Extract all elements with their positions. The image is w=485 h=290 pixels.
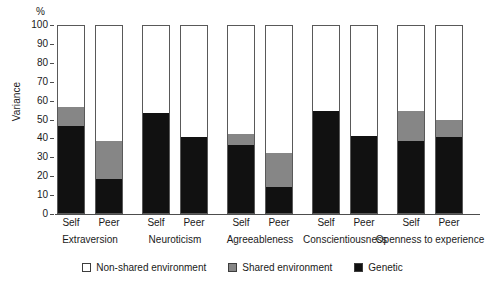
x-rater-label: Peer	[259, 217, 299, 228]
y-axis-tick-labels: 1009080706050403020100	[22, 0, 48, 290]
x-rater-label: Peer	[89, 217, 129, 228]
chart-legend: Non-shared environmentShared environment…	[0, 262, 485, 273]
bar-openness-to-experience-peer	[435, 25, 463, 214]
y-axis-title: Variance	[11, 62, 22, 142]
y-tick-label: 90	[22, 39, 48, 49]
segment-genetic	[96, 179, 122, 213]
x-rater-label: Self	[136, 217, 176, 228]
y-tick-label: 30	[22, 152, 48, 162]
variance-stacked-bar-chart: % Variance 1009080706050403020100 SelfPe…	[0, 0, 485, 290]
x-rater-label: Self	[221, 217, 261, 228]
bar-extraversion-self	[57, 25, 85, 214]
legend-swatch-icon	[354, 263, 363, 272]
x-axis-line	[55, 214, 480, 215]
y-tick-label: 50	[22, 115, 48, 125]
legend-label: Genetic	[368, 262, 402, 273]
x-rater-label: Self	[391, 217, 431, 228]
bar-agreeableness-peer	[265, 25, 293, 214]
bar-neuroticism-self	[142, 25, 170, 214]
y-tick-mark	[50, 120, 54, 121]
y-tick-mark	[50, 195, 54, 196]
y-tick-mark	[50, 63, 54, 64]
segment-shared-environment	[228, 134, 254, 145]
bar-agreeableness-self	[227, 25, 255, 214]
legend-label: Shared environment	[242, 262, 332, 273]
x-rater-label: Peer	[429, 217, 469, 228]
segment-genetic	[181, 137, 207, 213]
y-tick-label: 80	[22, 58, 48, 68]
plot-area	[55, 25, 480, 214]
y-tick-mark	[50, 25, 54, 26]
bar-openness-to-experience-self	[397, 25, 425, 214]
legend-item: Non-shared environment	[82, 262, 206, 273]
y-tick-mark	[50, 82, 54, 83]
segment-genetic	[398, 141, 424, 213]
y-tick-mark	[50, 101, 54, 102]
legend-item: Shared environment	[228, 262, 332, 273]
y-tick-label: 70	[22, 77, 48, 87]
segment-genetic	[143, 113, 169, 213]
segment-shared-environment	[96, 141, 122, 179]
segment-genetic	[228, 145, 254, 213]
segment-genetic	[313, 111, 339, 213]
y-tick-mark	[50, 44, 54, 45]
y-tick-mark	[50, 157, 54, 158]
bar-extraversion-peer	[95, 25, 123, 214]
segment-shared-environment	[436, 120, 462, 137]
legend-item: Genetic	[354, 262, 402, 273]
x-rater-label: Peer	[174, 217, 214, 228]
legend-swatch-icon	[228, 263, 237, 272]
segment-shared-environment	[266, 153, 292, 187]
bar-conscientiousness-peer	[350, 25, 378, 214]
x-rater-label: Self	[51, 217, 91, 228]
x-category-label: Openness to experience	[370, 234, 485, 245]
x-rater-label: Peer	[344, 217, 384, 228]
bar-conscientiousness-self	[312, 25, 340, 214]
y-tick-label: 60	[22, 96, 48, 106]
segment-genetic	[58, 126, 84, 213]
segment-genetic	[266, 187, 292, 213]
segment-genetic	[436, 137, 462, 213]
legend-swatch-icon	[82, 263, 91, 272]
legend-label: Non-shared environment	[96, 262, 206, 273]
x-rater-label: Self	[306, 217, 346, 228]
y-tick-mark	[50, 214, 54, 215]
y-tick-label: 10	[22, 190, 48, 200]
y-tick-label: 0	[22, 209, 48, 219]
y-tick-label: 40	[22, 133, 48, 143]
y-tick-mark	[50, 138, 54, 139]
segment-genetic	[351, 136, 377, 213]
y-tick-mark	[50, 176, 54, 177]
y-tick-label: 100	[22, 20, 48, 30]
segment-shared-environment	[58, 107, 84, 126]
segment-shared-environment	[398, 111, 424, 141]
y-tick-label: 20	[22, 171, 48, 181]
bar-neuroticism-peer	[180, 25, 208, 214]
